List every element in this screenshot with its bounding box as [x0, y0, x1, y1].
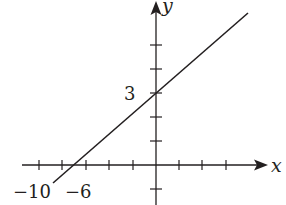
x-axis: [22, 160, 268, 171]
data-line: [53, 13, 248, 183]
coordinate-plane: x y −10 −6 3: [0, 0, 286, 205]
y-axis: [151, 1, 162, 205]
x-axis-label: x: [271, 154, 282, 176]
x-tick-label-neg10: −10: [13, 181, 51, 202]
x-tick-label-neg6: −6: [65, 181, 92, 202]
y-axis-label: y: [161, 0, 173, 16]
y-tick-label-3: 3: [124, 83, 135, 104]
